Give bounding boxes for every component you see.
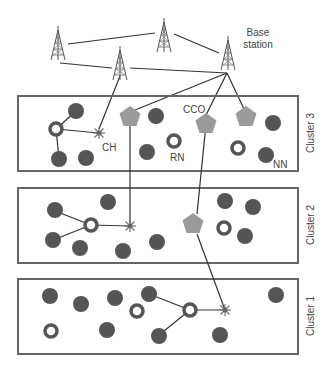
relay-node-icon <box>232 142 244 154</box>
tower-icon <box>51 26 65 60</box>
cco-label: CCO <box>183 104 205 115</box>
relay-node-icon <box>131 305 143 317</box>
tower-icon <box>113 46 127 80</box>
relay-node-icon <box>85 219 97 231</box>
ch-label: CH <box>102 142 116 153</box>
nn-label: NN <box>273 159 287 170</box>
cluster-2-box <box>18 188 298 263</box>
relay-node-icon <box>184 304 196 316</box>
relay-node-icon <box>45 325 57 337</box>
relay-node-icon <box>218 222 230 234</box>
cluster-2-label: Cluster 2 <box>305 205 316 245</box>
cco-pentagon-icon <box>183 213 204 233</box>
cluster-1-label: Cluster 1 <box>305 296 316 336</box>
base-station-tower-icon <box>221 36 235 70</box>
cluster-head-icon <box>93 127 105 139</box>
cluster-3-label: Cluster 3 <box>305 113 316 153</box>
cco-pentagon-icon <box>236 106 257 126</box>
cluster-head-icon <box>124 220 136 232</box>
cluster-1-nodes <box>42 286 284 344</box>
relay-node-icon <box>168 135 180 147</box>
relay-node-icon <box>50 123 62 135</box>
cco-pentagon-icon <box>196 113 217 133</box>
base-station-label-line2: station <box>243 39 272 50</box>
tower-icon <box>157 18 171 52</box>
base-station-label-line1: Base <box>247 27 270 38</box>
rn-label: RN <box>170 152 184 163</box>
network-diagram: Base station Cluster 3 Cluster 2 Cluster… <box>0 0 329 373</box>
cluster-head-icon <box>219 304 231 316</box>
